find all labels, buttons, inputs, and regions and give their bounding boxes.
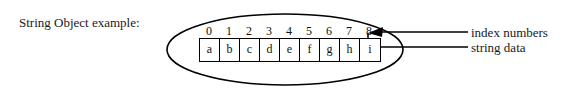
diagram-caption: String Object example:: [19, 15, 140, 30]
character-cell: i: [360, 39, 380, 61]
character-cell: f: [300, 39, 320, 61]
character-cell: e: [280, 39, 300, 61]
index-cell: 7: [339, 24, 359, 38]
index-cell: 5: [299, 24, 319, 38]
index-cell: 8: [359, 24, 379, 38]
index-cell: 1: [219, 24, 239, 38]
character-cell: h: [340, 39, 360, 61]
character-cell: b: [220, 39, 240, 61]
character-cell: g: [320, 39, 340, 61]
character-cell: a: [200, 39, 220, 61]
annotation-string-data: string data: [471, 40, 526, 55]
string-object-diagram: String Object example: 0 1 2 3 4 5 6 7 8…: [0, 0, 574, 96]
index-number-row: 0 1 2 3 4 5 6 7 8: [199, 24, 379, 38]
character-cell-row: a b c d e f g h i: [199, 38, 381, 62]
annotation-index-numbers: index numbers: [471, 25, 548, 40]
index-cell: 4: [279, 24, 299, 38]
character-cell: d: [260, 39, 280, 61]
character-cell: c: [240, 39, 260, 61]
index-cell: 3: [259, 24, 279, 38]
index-cell: 6: [319, 24, 339, 38]
index-cell: 0: [199, 24, 219, 38]
index-cell: 2: [239, 24, 259, 38]
